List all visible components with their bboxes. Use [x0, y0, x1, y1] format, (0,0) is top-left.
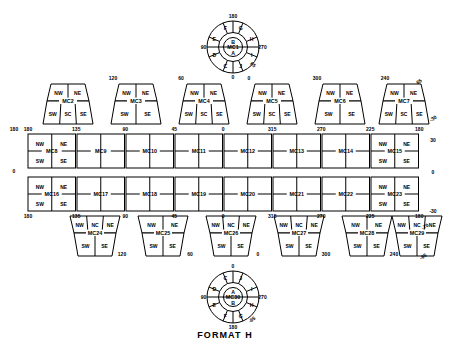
- rect-lower-angle-3: 45: [171, 213, 177, 219]
- rect-upper-mc8-sw: SW: [36, 158, 44, 164]
- trapezoid-mc24-cell-SE: SE: [101, 243, 108, 249]
- polar-bottom-mc30-segment-F: F: [224, 313, 227, 319]
- rect-lower-mc16-sw: SW: [36, 201, 44, 207]
- polar-bottom-mc30: CJIHGFEDAMC30B090270180-65: [201, 263, 267, 330]
- trapezoid-mc4-id-label: MC4: [198, 98, 209, 104]
- trapezoid-mc5-cell-NE: NE: [278, 90, 286, 96]
- trapezoid-mc27-cell-SE: SE: [305, 243, 312, 249]
- trapezoid-mc25-cell-NW: NW: [147, 222, 156, 228]
- rect-upper-mc10-id: MC10: [143, 148, 157, 154]
- trapezoid-angle-mc27: 300: [322, 251, 331, 257]
- trapezoid-mc5-cell-SC: SC: [269, 111, 276, 117]
- rect-upper-angle-2: 90: [122, 126, 128, 132]
- trapezoid-mc7-cell-SW: SW: [385, 111, 393, 117]
- trapezoid-mc5-cell-SW: SW: [253, 111, 261, 117]
- trapezoid-mc4-cell-SC: SC: [201, 111, 208, 117]
- trapezoid-mc7-id-label: MC7: [398, 98, 409, 104]
- rect-upper-mc8-id: MC8: [46, 148, 57, 154]
- trapezoid-mc6-cell-NW: NW: [326, 90, 335, 96]
- rect-upper-mc11: MC11: [175, 134, 223, 168]
- polar-top-mc1-inner-bottom: A: [231, 50, 235, 56]
- trapezoid-mc24-cell-NC: NC: [91, 222, 99, 228]
- polar-top-mc1-segment-D: D: [212, 52, 216, 58]
- trapezoid-angle-mc3: 60: [178, 75, 184, 81]
- trapezoid-mc26: NWNCNESWSEMC26: [206, 216, 256, 256]
- rect-upper-mc10: MC10: [126, 134, 174, 168]
- rect-lower-angle-5: 315: [268, 213, 277, 219]
- trapezoid-angle-mc26: 0: [257, 251, 260, 257]
- trapezoid-mc27-id-label: MC27: [292, 230, 306, 236]
- trapezoid-mc6-cell-SE: SE: [348, 111, 355, 117]
- rect-lower-angle-7: 225: [366, 213, 375, 219]
- diagram-title: FORMAT H: [0, 330, 450, 340]
- edge-angle-right-bottom: -30: [429, 208, 436, 214]
- trapezoid-angle-mc7-lower: -30: [428, 114, 438, 123]
- trapezoid-mc7-cell-SC: SC: [401, 111, 408, 117]
- rect-upper-mc12-id: MC12: [241, 148, 255, 154]
- trapezoid-mc25-cell-SE: SE: [169, 243, 176, 249]
- rect-upper-mc15: NWNESWSEMC15: [371, 134, 419, 168]
- trapezoid-mc24-id-label: MC24: [88, 230, 102, 236]
- polar-bottom-mc30-segment-D: D: [212, 286, 216, 292]
- rect-lower-mc23-se: SE: [403, 201, 410, 207]
- rect-lower-mc16-id: MC16: [45, 191, 59, 197]
- trapezoid-angle-mc24: 120: [118, 251, 127, 257]
- rect-upper-mc8: NWNESWSEMC8: [28, 134, 76, 168]
- trapezoid-mc27-cell-SW: SW: [285, 243, 293, 249]
- trapezoid-mc4-cell-NW: NW: [190, 90, 199, 96]
- trapezoid-mc28-cell-SW: SW: [353, 243, 361, 249]
- trapezoid-mc27-cell-NW: NW: [279, 222, 288, 228]
- trapezoid-mc26-cell-SW: SW: [217, 243, 225, 249]
- trapezoid-mc28-cell-NE: NE: [375, 222, 383, 228]
- rect-upper-angle-4: 0: [222, 126, 225, 132]
- polar-top-mc1: FGHIJCDEBMC1A180902700: [201, 13, 267, 80]
- polar-top-mc1-angle-top: 180: [229, 13, 238, 19]
- trapezoid-mc7-cell-NW: NW: [390, 90, 399, 96]
- rect-lower-mc16: NWNESWSEMC16: [28, 177, 76, 211]
- edge-angle-right-lower: 0: [432, 169, 435, 175]
- rect-upper-mc13: MC13: [273, 134, 321, 168]
- trapezoid-mc4-cell-SW: SW: [185, 111, 193, 117]
- trapezoid-mc25-cell-SW: SW: [149, 243, 157, 249]
- rect-lower-mc16-se: SE: [60, 201, 67, 207]
- rect-upper-mc15-nw: NW: [379, 141, 388, 147]
- trapezoid-angle-mc4: 0: [248, 75, 251, 81]
- rect-lower-angle-4: 0: [222, 213, 225, 219]
- trapezoid-mc3-cell-NW: NW: [122, 90, 131, 96]
- rect-upper-angle-3: 45: [171, 126, 177, 132]
- rect-lower-mc20-id: MC20: [241, 191, 255, 197]
- polar-bottom-mc30-angle-left: 90: [201, 294, 207, 300]
- rect-lower-mc18: MC18: [126, 177, 174, 211]
- trapezoid-mc7: NWNESWSCSEMC7: [379, 84, 429, 124]
- polar-top-mc1-segment-F: F: [224, 25, 227, 31]
- trapezoid-mc27-cell-NC: NC: [295, 222, 303, 228]
- rect-upper-mc8-se: SE: [60, 158, 67, 164]
- edge-angle-right-upper: 30: [430, 137, 436, 143]
- trapezoid-mc3-id-label: MC3: [130, 98, 141, 104]
- polar-bottom-mc30-segment-J: J: [239, 275, 242, 281]
- trapezoid-mc29-cell-NE: NE: [429, 222, 437, 228]
- rect-upper-angle-8: 180: [415, 126, 424, 132]
- rect-upper-mc15-se: SE: [403, 158, 410, 164]
- polar-top-mc1-segment-C: C: [223, 63, 227, 69]
- edge-angle-left-lower: 0: [13, 168, 16, 174]
- rect-lower-mc21-id: MC21: [290, 191, 304, 197]
- trapezoid-mc27-cell-NE: NE: [311, 222, 319, 228]
- trapezoid-mc26-id-label: MC26: [224, 230, 238, 236]
- trapezoid-mc3-cell-SE: SE: [144, 111, 151, 117]
- trapezoid-mc26-cell-SE: SE: [237, 243, 244, 249]
- trapezoid-mc6-id-label: MC6: [334, 98, 345, 104]
- trapezoid-angle-mc6: 240: [381, 75, 390, 81]
- trapezoid-angle-mc2: 120: [109, 75, 118, 81]
- rect-lower-mc19-id: MC19: [192, 191, 206, 197]
- rect-lower-mc22-id: MC22: [339, 191, 353, 197]
- rect-lower-angle-1: 135: [72, 213, 81, 219]
- trapezoid-mc28-id-label: MC28: [360, 230, 374, 236]
- trapezoid-mc6-cell-SW: SW: [324, 111, 332, 117]
- rect-upper-angle-0: 180: [24, 126, 33, 132]
- trapezoid-mc28-cell-NW: NW: [351, 222, 360, 228]
- trapezoid-mc25-id-label: MC25: [156, 230, 170, 236]
- rect-lower-mc18-id: MC18: [143, 191, 157, 197]
- trapezoid-mc2-cell-SE: SE: [80, 111, 87, 117]
- trapezoid-mc29-cell-SW: SW: [403, 243, 411, 249]
